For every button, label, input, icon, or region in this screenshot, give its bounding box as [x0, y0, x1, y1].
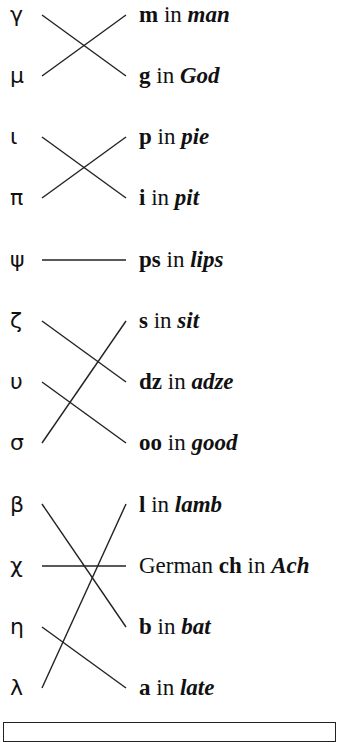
sound-in: in	[162, 430, 191, 455]
sound-word: man	[188, 2, 230, 27]
line-upsilon-oo	[42, 382, 126, 443]
sound-in: in	[145, 492, 174, 517]
line-lambda-l	[42, 504, 126, 688]
sound-in: in	[148, 308, 177, 333]
sound-in: in	[152, 614, 181, 639]
sound-l-in-lamb: l in lamb	[139, 491, 222, 519]
sound-word: bat	[181, 614, 210, 639]
sound-letters: b	[139, 614, 152, 639]
sound-in: in	[145, 185, 174, 210]
sound-in: in	[242, 553, 271, 578]
line-zeta-dz	[42, 321, 126, 382]
bottom-box-border	[3, 722, 336, 742]
sound-oo-in-good: oo in good	[139, 429, 237, 457]
sound-letters: a	[139, 675, 151, 700]
sound-letters: m	[139, 2, 158, 27]
sound-in: in	[162, 369, 191, 394]
sound-letters: g	[139, 63, 151, 88]
sound-letters: ch	[219, 553, 242, 578]
sound-m-in-man: m in man	[139, 1, 230, 29]
sound-letters: ps	[139, 247, 161, 272]
sound-word: lamb	[175, 492, 222, 517]
sound-word: late	[180, 675, 215, 700]
sound-in: in	[151, 675, 180, 700]
sound-word: God	[180, 63, 220, 88]
sound-in: in	[158, 2, 187, 27]
sound-dz-in-adze: dz in adze	[139, 368, 234, 396]
line-sigma-s	[42, 321, 126, 443]
sound-word: adze	[191, 369, 233, 394]
sound-in: in	[161, 247, 190, 272]
sound-s-in-sit: s in sit	[139, 307, 199, 335]
sound-word: sit	[177, 308, 199, 333]
sound-prefix: German	[139, 553, 219, 578]
sound-german-ch-in-ach: German ch in Ach	[139, 552, 310, 580]
sound-word: Ach	[271, 553, 309, 578]
sound-letters: s	[139, 308, 148, 333]
line-eta-a	[42, 627, 126, 688]
sound-g-in-god: g in God	[139, 62, 220, 90]
sound-p-in-pie: p in pie	[139, 123, 209, 151]
sound-ps-in-lips: ps in lips	[139, 246, 223, 274]
sound-word: pit	[175, 185, 199, 210]
sound-word: lips	[190, 247, 223, 272]
sound-in: in	[151, 63, 180, 88]
sound-a-in-late: a in late	[139, 674, 214, 702]
sound-i-in-pit: i in pit	[139, 184, 199, 212]
sound-letters: p	[139, 124, 152, 149]
sound-word: good	[191, 430, 237, 455]
sound-letters: oo	[139, 430, 162, 455]
sound-letters: dz	[139, 369, 162, 394]
sound-in: in	[152, 124, 181, 149]
sound-word: pie	[181, 124, 209, 149]
sound-b-in-bat: b in bat	[139, 613, 211, 641]
